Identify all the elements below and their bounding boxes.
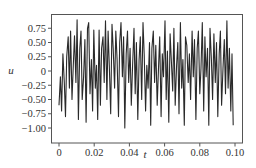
- y-tick-label: 0.25: [28, 51, 46, 62]
- y-tick-label: 0.50: [28, 37, 46, 48]
- y-tick-label: 0: [41, 66, 46, 77]
- y-tick-label: −0.25: [22, 80, 46, 91]
- y-axis: 0.750.500.250−0.25−0.50−0.75−1.00: [22, 23, 52, 134]
- y-tick-label: −0.75: [22, 108, 46, 119]
- x-tick-label: 0: [56, 147, 61, 158]
- x-tick-label: 0.02: [85, 147, 103, 158]
- signal-line: [59, 20, 233, 128]
- x-tick-label: 0.10: [226, 147, 244, 158]
- y-axis-label: u: [8, 64, 14, 76]
- y-tick-label: 0.75: [28, 23, 46, 34]
- x-tick-label: 0.06: [155, 147, 173, 158]
- x-tick-label: 0.08: [191, 147, 209, 158]
- chart: 0.750.500.250−0.25−0.50−0.75−1.00 00.020…: [0, 0, 256, 168]
- y-tick-label: −1.00: [22, 123, 46, 134]
- y-tick-label: −0.50: [22, 94, 46, 105]
- x-tick-label: 0.04: [120, 147, 139, 158]
- signal-path: [59, 20, 233, 128]
- x-axis: 00.020.040.060.080.10: [56, 143, 244, 158]
- x-axis-label: t: [143, 148, 147, 160]
